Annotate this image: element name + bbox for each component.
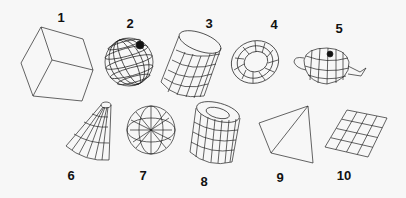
pyramid-shape [259, 106, 313, 163]
cylinder-shape [158, 26, 224, 98]
label-8: 8 [200, 174, 207, 189]
label-6: 6 [67, 168, 74, 183]
label-3: 3 [205, 16, 212, 31]
label-5: 5 [335, 21, 342, 36]
label-10: 10 [337, 168, 351, 183]
label-2: 2 [126, 16, 133, 31]
primitives-figure: 1 2 3 4 5 6 7 8 9 10 [0, 0, 406, 198]
label-1: 1 [57, 10, 64, 25]
cone-shape [66, 102, 111, 160]
tube-shape [190, 98, 242, 164]
sphere-shape [102, 32, 157, 92]
label-9: 9 [276, 170, 283, 185]
cube-shape [21, 27, 93, 101]
geosphere-shape [127, 106, 175, 154]
plane-shape [325, 110, 387, 157]
torus-shape [225, 34, 284, 90]
label-4: 4 [270, 17, 277, 32]
teapot-shape [294, 48, 366, 84]
label-7: 7 [139, 168, 146, 183]
